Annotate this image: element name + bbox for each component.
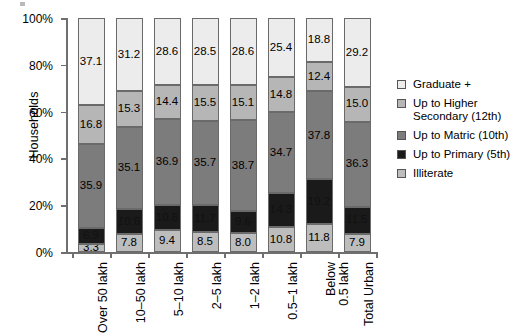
bar-segment[interactable]: 36.3 xyxy=(344,122,371,207)
bar-segment[interactable]: 7.8 xyxy=(116,234,143,252)
bar-segment[interactable]: 7.9 xyxy=(344,234,371,252)
segment-value-label: 6.9 xyxy=(83,230,99,242)
bar-segment[interactable]: 37.8 xyxy=(306,91,333,179)
segment-value-label: 28.6 xyxy=(156,46,178,58)
segment-value-label: 8.5 xyxy=(197,236,213,248)
segment-value-label: 9.6 xyxy=(235,216,251,228)
x-axis-label: Below 0.5 lakh xyxy=(325,262,350,333)
bar-segment[interactable]: 15.3 xyxy=(116,91,143,127)
bar-segment[interactable]: 9.4 xyxy=(154,230,181,252)
bar-segment[interactable]: 8.5 xyxy=(192,232,219,252)
bar-segment[interactable]: 18.8 xyxy=(306,18,333,62)
segment-value-label: 35.9 xyxy=(80,180,102,192)
legend-label: Graduate + xyxy=(413,78,471,91)
bar-segment[interactable]: 6.9 xyxy=(78,228,105,244)
segment-value-label: 31.2 xyxy=(118,49,140,61)
legend-label: Up to Matric (10th) xyxy=(413,129,508,142)
bar-segment[interactable]: 9.6 xyxy=(230,211,257,233)
bar-segment[interactable]: 10.6 xyxy=(154,205,181,230)
bar-segment[interactable]: 15.5 xyxy=(192,85,219,121)
segment-value-label: 10.6 xyxy=(156,212,178,224)
x-axis-label: 10–50 lakh xyxy=(135,262,148,333)
x-axis-tick xyxy=(148,252,150,258)
bar-3[interactable]: 8.511.735.715.528.5 xyxy=(192,18,219,252)
bar-7[interactable]: 7.911.536.315.029.2 xyxy=(344,18,371,252)
segment-value-label: 14.8 xyxy=(270,89,292,101)
segment-value-label: 3.3 xyxy=(83,244,99,252)
segment-value-label: 9.4 xyxy=(159,235,175,247)
chart-legend: Graduate +Up to Higher Secondary (12th)U… xyxy=(397,78,522,186)
segment-value-label: 7.9 xyxy=(349,237,365,249)
segment-value-label: 15.0 xyxy=(346,98,368,110)
y-axis-tick-label: 80% xyxy=(29,59,53,73)
bar-5[interactable]: 10.814.334.714.825.4 xyxy=(268,18,295,252)
bar-segment[interactable]: 29.2 xyxy=(344,18,371,86)
bar-segment[interactable]: 19.2 xyxy=(306,179,333,224)
bar-6[interactable]: 11.819.237.812.418.8 xyxy=(306,18,333,252)
bar-segment[interactable]: 14.8 xyxy=(268,77,295,112)
bar-1[interactable]: 7.810.635.115.331.2 xyxy=(116,18,143,252)
segment-value-label: 15.5 xyxy=(194,97,216,109)
bar-4[interactable]: 8.09.638.715.128.6 xyxy=(230,18,257,252)
segment-value-label: 12.4 xyxy=(308,71,330,83)
x-axis-tick xyxy=(262,252,264,258)
bar-segment[interactable]: 11.8 xyxy=(306,224,333,252)
bar-segment[interactable]: 31.2 xyxy=(116,18,143,91)
plot-area: 0%20%40%60%80%100% 3.36.935.916.837.17.8… xyxy=(66,18,376,252)
legend-item[interactable]: Up to Primary (5th) xyxy=(397,148,522,161)
segment-value-label: 38.7 xyxy=(232,160,254,172)
segment-value-label: 8.0 xyxy=(235,237,251,249)
bars-layer: 3.36.935.916.837.17.810.635.115.331.29.4… xyxy=(66,18,376,252)
segment-value-label: 15.3 xyxy=(118,103,140,115)
y-axis-title: Households xyxy=(27,55,41,195)
bar-segment[interactable]: 28.5 xyxy=(192,18,219,85)
bar-segment[interactable]: 35.1 xyxy=(116,127,143,209)
bar-segment[interactable]: 8.0 xyxy=(230,233,257,252)
segment-value-label: 16.8 xyxy=(80,119,102,131)
x-axis-tick xyxy=(300,252,302,258)
segment-value-label: 28.6 xyxy=(232,46,254,58)
segment-value-label: 7.8 xyxy=(121,237,137,249)
segment-value-label: 37.1 xyxy=(80,56,102,68)
segment-value-label: 29.2 xyxy=(346,47,368,59)
bar-segment[interactable]: 38.7 xyxy=(230,120,257,211)
bar-segment[interactable]: 35.7 xyxy=(192,121,219,205)
bar-segment[interactable]: 28.6 xyxy=(154,18,181,85)
bar-segment[interactable]: 15.0 xyxy=(344,87,371,122)
bar-segment[interactable]: 36.9 xyxy=(154,119,181,205)
bar-segment[interactable]: 10.8 xyxy=(268,227,295,252)
bar-segment[interactable]: 34.7 xyxy=(268,112,295,193)
bar-0[interactable]: 3.36.935.916.837.1 xyxy=(78,18,105,252)
bar-segment[interactable]: 37.1 xyxy=(78,18,105,105)
legend-item[interactable]: Up to Higher Secondary (12th) xyxy=(397,97,522,123)
x-axis-label: 1–2 lakh xyxy=(249,262,262,333)
bar-segment[interactable]: 15.1 xyxy=(230,85,257,120)
segment-value-label: 34.7 xyxy=(270,147,292,159)
bar-segment[interactable]: 16.8 xyxy=(78,105,105,144)
bar-2[interactable]: 9.410.636.914.428.6 xyxy=(154,18,181,252)
x-axis-tick xyxy=(186,252,188,258)
segment-value-label: 36.3 xyxy=(346,158,368,170)
legend-label: Illiterate xyxy=(413,167,453,180)
x-axis-tick xyxy=(110,252,112,258)
legend-label: Up to Higher Secondary (12th) xyxy=(413,97,501,123)
bar-segment[interactable]: 12.4 xyxy=(306,62,333,91)
legend-swatch-icon xyxy=(397,80,406,89)
segment-value-label: 35.1 xyxy=(118,162,140,174)
segment-value-label: 14.3 xyxy=(270,204,292,216)
bar-segment[interactable]: 14.3 xyxy=(268,193,295,226)
y-axis-tick-label: 0% xyxy=(36,246,53,260)
bar-segment[interactable]: 11.5 xyxy=(344,207,371,234)
bar-segment[interactable]: 11.7 xyxy=(192,205,219,232)
legend-item[interactable]: Graduate + xyxy=(397,78,522,91)
legend-item[interactable]: Up to Matric (10th) xyxy=(397,129,522,142)
bar-segment[interactable]: 14.4 xyxy=(154,85,181,119)
bar-segment[interactable]: 28.6 xyxy=(230,18,257,85)
legend-item[interactable]: Illiterate xyxy=(397,167,522,180)
y-axis-tick-label: 100% xyxy=(22,12,53,26)
bar-segment[interactable]: 25.4 xyxy=(268,18,295,77)
segment-value-label: 11.8 xyxy=(308,232,330,244)
bar-segment[interactable]: 35.9 xyxy=(78,144,105,228)
bar-segment[interactable]: 10.6 xyxy=(116,209,143,234)
bar-segment[interactable]: 3.3 xyxy=(78,244,105,252)
